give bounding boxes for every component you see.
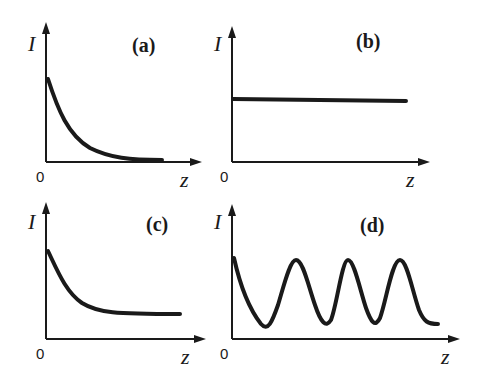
y-axis-label: I bbox=[213, 31, 223, 56]
x-axis-label: z bbox=[405, 167, 415, 192]
panel-label: (b) bbox=[356, 30, 380, 53]
y-axis-label: I bbox=[213, 209, 223, 234]
y-axis-label: I bbox=[27, 209, 37, 234]
x-axis-arrow-icon bbox=[448, 335, 460, 343]
panel-a: I 0 z (a) bbox=[27, 22, 202, 192]
x-axis-arrow-icon bbox=[194, 335, 206, 343]
y-axis-arrow-icon bbox=[42, 202, 50, 214]
x-axis-arrow-icon bbox=[418, 158, 430, 166]
decay-to-constant-curve bbox=[48, 251, 180, 314]
y-axis-arrow-icon bbox=[228, 204, 236, 216]
decay-curve bbox=[48, 79, 162, 160]
x-axis-arrow-icon bbox=[190, 158, 202, 166]
constant-line bbox=[233, 99, 406, 101]
panel-c: I 0 z (c) bbox=[27, 202, 206, 369]
origin-label: 0 bbox=[36, 168, 44, 185]
oscillating-curve bbox=[234, 258, 438, 327]
origin-label: 0 bbox=[36, 345, 44, 362]
origin-label: 0 bbox=[220, 168, 228, 185]
panel-b: I 0 z (b) bbox=[213, 26, 430, 192]
panel-label: (d) bbox=[360, 214, 384, 237]
y-axis-label: I bbox=[27, 31, 37, 56]
y-axis-arrow-icon bbox=[228, 26, 236, 38]
panel-d: I 0 z (d) bbox=[213, 204, 460, 369]
panel-label: (a) bbox=[132, 34, 155, 57]
panel-label: (c) bbox=[146, 213, 168, 236]
x-axis-label: z bbox=[180, 344, 190, 369]
origin-label: 0 bbox=[220, 345, 228, 362]
y-axis-arrow-icon bbox=[42, 22, 50, 34]
x-axis-label: z bbox=[179, 167, 189, 192]
intensity-profiles-figure: I 0 z (a) I 0 z (b) I 0 z (c) I 0 z bbox=[0, 0, 480, 388]
x-axis-label: z bbox=[440, 344, 450, 369]
